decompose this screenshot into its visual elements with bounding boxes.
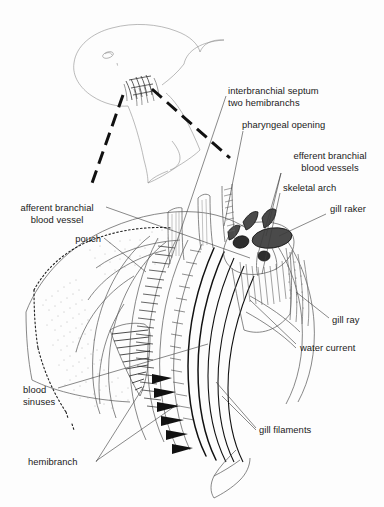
label-interbranchial-septum-line2: two hemibranchs xyxy=(228,97,319,109)
label-afferent-branchial-blood-vessel: afferent branchial blood vessel xyxy=(20,202,93,225)
skeletal-arch-hatch xyxy=(240,261,286,305)
gill-raker-wedge-2 xyxy=(262,209,276,228)
shark-head-sketch xyxy=(74,24,224,183)
label-hemibranch: hemibranch xyxy=(28,456,78,468)
pouch-cut-edge xyxy=(34,228,172,291)
label-blood-sinuses: blood sinuses xyxy=(23,384,55,407)
leader-interbranchial-septum xyxy=(168,96,226,268)
leader-gill-raker xyxy=(279,214,326,236)
septum-hatching xyxy=(136,246,175,408)
gill-anatomy-figure xyxy=(0,0,384,507)
callout-dashed-right xyxy=(152,89,230,158)
label-blood-sinuses-line1: blood xyxy=(23,384,55,396)
leader-blood-sinuses xyxy=(58,344,208,388)
label-gill-filaments: gill filaments xyxy=(259,424,311,436)
label-efferent-line1: efferent branchial xyxy=(293,150,366,162)
label-pharyngeal-opening: pharyngeal opening xyxy=(242,119,325,131)
label-blood-sinuses-line2: sinuses xyxy=(23,396,55,408)
label-skeletal-arch: skeletal arch xyxy=(283,182,336,194)
gill-pouch-cutaway xyxy=(26,184,314,498)
leader-gill-filaments-1 xyxy=(216,382,256,428)
hemibranch-cone xyxy=(110,323,150,396)
label-afferent-line2: blood vessel xyxy=(20,214,93,226)
gill-filament-arcs xyxy=(188,248,254,462)
label-interbranchial-septum-line1: interbranchial septum xyxy=(228,85,319,97)
leader-hemibranch-1 xyxy=(96,386,144,462)
label-gill-raker: gill raker xyxy=(330,203,366,215)
label-water-current: water current xyxy=(300,342,355,354)
callout-dashed-left xyxy=(91,95,123,186)
label-efferent-branchial-blood-vessels: efferent branchial blood vessels xyxy=(293,150,366,173)
leader-gill-ray xyxy=(296,292,329,318)
leader-efferent-1 xyxy=(266,173,281,236)
leader-gill-filaments-2 xyxy=(222,396,256,430)
leader-lines xyxy=(58,96,329,462)
label-interbranchial-septum: interbranchial septum two hemibranchs xyxy=(228,85,319,108)
leader-hemibranch-2 xyxy=(96,404,178,461)
label-afferent-line1: afferent branchial xyxy=(20,202,93,214)
label-pouch: pouch xyxy=(75,233,101,245)
efferent-vessel-tiny xyxy=(258,251,270,261)
leader-pharyngeal-opening xyxy=(224,131,243,226)
label-efferent-line2: blood vessels xyxy=(293,162,366,174)
callout-dashed-lines xyxy=(91,89,230,186)
label-gill-ray: gill ray xyxy=(332,314,360,326)
gill-raker-wedge-1 xyxy=(243,211,258,230)
